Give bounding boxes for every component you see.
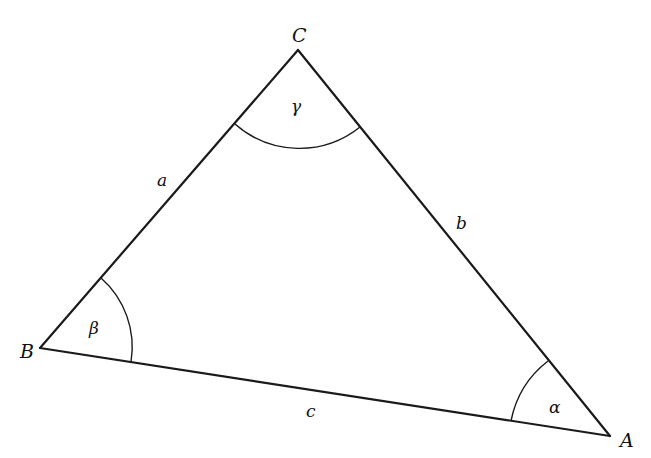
angle-arc-alpha bbox=[511, 361, 548, 421]
angle-arc-beta bbox=[101, 278, 132, 362]
side-label-b: b bbox=[456, 213, 467, 233]
vertex-label-c: C bbox=[292, 24, 307, 46]
angle-label-alpha: α bbox=[549, 397, 561, 417]
vertex-label-a: A bbox=[618, 429, 634, 451]
angle-label-beta: β bbox=[88, 318, 99, 338]
side-c bbox=[40, 348, 610, 436]
side-label-c: c bbox=[306, 401, 316, 421]
angle-arc-gamma bbox=[235, 124, 360, 148]
side-a bbox=[40, 50, 298, 348]
side-label-a: a bbox=[157, 170, 167, 190]
triangle-diagram: C B A a b c γ β α bbox=[0, 0, 651, 458]
vertex-label-b: B bbox=[19, 340, 34, 362]
angle-label-gamma: γ bbox=[291, 96, 302, 116]
side-b bbox=[298, 50, 610, 436]
